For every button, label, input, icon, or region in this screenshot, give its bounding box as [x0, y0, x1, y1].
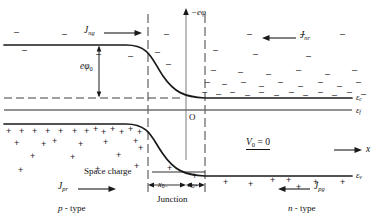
depletion-left-label: x0− [158, 180, 168, 190]
p-region-label: p - type [58, 204, 86, 213]
current-arrow-jng [104, 30, 142, 36]
current-label-jng: Jng [84, 26, 95, 36]
space-charge-label: Space charge [84, 167, 132, 176]
bias-label: V0 = 0 [246, 138, 270, 150]
conduction-band-label: εc [356, 93, 362, 103]
junction-label: Junction [157, 195, 188, 204]
current-arrow-jnr [262, 35, 296, 41]
fermi-level-label: εf [356, 106, 361, 116]
current-arrow-jpr [78, 186, 116, 192]
vertical-axis-label: −eφ [191, 8, 206, 17]
current-label-jpr: Jpr [58, 182, 68, 192]
x-axis-label: x [366, 145, 370, 155]
barrier-height-label: eφ0 [80, 62, 93, 72]
valence-band-curve [4, 124, 352, 176]
origin-label: O [189, 113, 196, 122]
vertical-axis [183, 8, 189, 160]
current-label-jnr: Jnr [300, 31, 310, 41]
depletion-right-label: x0+ [188, 180, 198, 190]
x-axis-arrow [334, 147, 362, 153]
current-arrow-jpg [278, 186, 310, 192]
n-region-label: n - type [288, 204, 316, 213]
valence-band-label: εv [356, 171, 362, 181]
current-label-jpg: Jpg [314, 182, 325, 192]
